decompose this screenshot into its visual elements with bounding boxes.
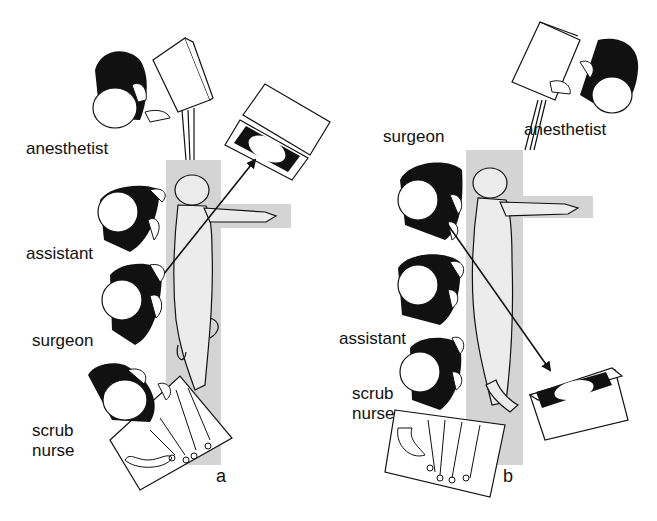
patient-figure	[472, 168, 578, 412]
label-surgeon-a: surgeon	[32, 331, 93, 351]
label-assistant-a: assistant	[26, 244, 93, 264]
label-assistant-b: assistant	[339, 329, 406, 349]
surgeon-figure	[398, 163, 462, 240]
anesthesia-machine	[153, 38, 213, 160]
panel-a	[88, 38, 330, 490]
video-monitor	[225, 84, 330, 180]
operating-room-diagram	[0, 0, 657, 521]
assistant-figure	[398, 254, 464, 325]
panel-b	[385, 22, 638, 497]
label-surgeon-b: surgeon	[383, 127, 444, 147]
surgeon-figure	[102, 264, 165, 345]
label-anesthetist-b: anesthetist	[524, 120, 606, 140]
video-monitor	[530, 368, 628, 440]
label-anesthetist-a: anesthetist	[26, 139, 108, 159]
panel-letter-a: a	[216, 466, 226, 487]
panel-letter-b: b	[503, 466, 513, 487]
label-scrub-nurse-b: scrub nurse	[352, 384, 395, 424]
label-scrub-nurse-a: scrub nurse	[32, 421, 75, 461]
instrument-tray	[385, 410, 505, 497]
assistant-figure	[98, 186, 165, 252]
scrub-nurse-figure	[400, 337, 464, 410]
